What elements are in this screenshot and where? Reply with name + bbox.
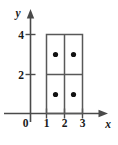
rectangle-shape-group	[47, 35, 83, 114]
tick-marks-group	[26, 35, 83, 119]
x-axis-label: x	[104, 118, 111, 130]
axes-group	[4, 9, 108, 122]
data-point	[53, 52, 58, 57]
labels-group: 0 1 2 3 2 4 x y	[13, 7, 111, 130]
data-point	[53, 92, 58, 97]
origin-label: 0	[23, 117, 29, 129]
y-axis-label: y	[13, 7, 21, 20]
data-point	[71, 52, 76, 57]
coordinate-plane-figure: 0 1 2 3 2 4 x y	[0, 0, 118, 145]
y-tick-label-2: 2	[18, 69, 24, 81]
y-axis-arrow-icon	[27, 9, 34, 19]
x-tick-label-2: 2	[62, 117, 68, 129]
x-axis-arrow-icon	[99, 110, 109, 117]
x-tick-label-1: 1	[44, 117, 50, 129]
y-tick-label-4: 4	[18, 29, 24, 41]
data-point	[71, 92, 76, 97]
x-tick-label-3: 3	[80, 117, 86, 129]
